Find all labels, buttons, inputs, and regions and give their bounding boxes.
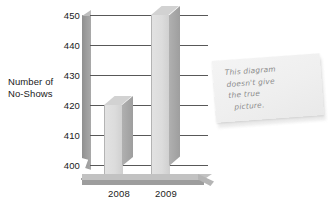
bar-2009-side — [169, 6, 180, 166]
bar-2009 — [151, 6, 179, 175]
gridline-430 — [90, 75, 208, 76]
y-axis-wall — [82, 15, 91, 175]
chart-figure: Number of No-Shows 450 440 430 420 410 4… — [0, 0, 336, 209]
y-tick-430: 430 — [54, 70, 80, 81]
sticky-note-text: This diagram doesn't give the true pictu… — [224, 60, 319, 113]
y-tick-400: 400 — [54, 160, 80, 171]
y-tick-410: 410 — [54, 130, 80, 141]
plot-area: 2008 2009 — [80, 10, 215, 180]
sticky-note-annotation: This diagram doesn't give the true pictu… — [210, 52, 332, 132]
x-tick-2008: 2008 — [102, 188, 136, 199]
gridline-450 — [90, 15, 208, 16]
bar-2008-front — [104, 105, 123, 175]
y-tick-440: 440 — [54, 40, 80, 51]
bar-2008-side — [122, 96, 133, 166]
sticky-note-paper: This diagram doesn't give the true pictu… — [212, 53, 324, 123]
y-tick-450: 450 — [54, 10, 80, 21]
x-tick-2009: 2009 — [149, 188, 183, 199]
chart-floor-front — [82, 180, 204, 185]
gridline-440 — [90, 45, 208, 46]
y-tick-420: 420 — [54, 100, 80, 111]
bar-2009-front — [151, 15, 170, 175]
bar-2008 — [104, 96, 132, 175]
y-axis-tick-labels: 450 440 430 420 410 400 — [52, 0, 80, 209]
